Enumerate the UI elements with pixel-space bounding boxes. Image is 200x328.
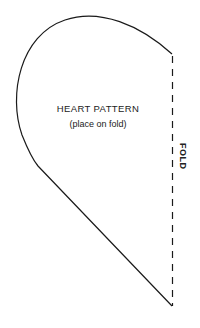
fold-label: FOLD <box>178 143 188 170</box>
pattern-title: HEART PATTERN <box>38 103 158 114</box>
pattern-subtitle: (place on fold) <box>38 119 158 129</box>
heart-pattern-outline <box>0 0 200 328</box>
heart-curve-outline <box>16 16 172 306</box>
